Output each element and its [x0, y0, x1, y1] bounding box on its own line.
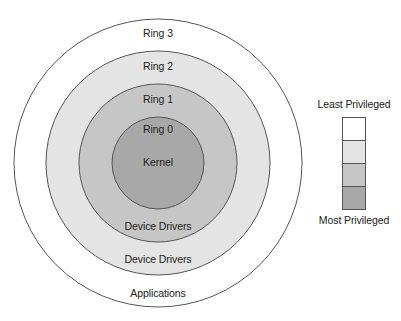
legend-top-label: Least Privileged: [317, 98, 390, 110]
legend-swatch-ring-1: [343, 164, 365, 187]
protection-rings-diagram: [0, 0, 401, 321]
ring-2-bottom-label: Device Drivers: [125, 253, 192, 265]
privilege-legend: [342, 117, 366, 210]
ring-3-label: Ring 3: [143, 27, 173, 39]
ring-3-bottom-label: Applications: [130, 287, 185, 299]
legend-bottom-label: Most Privileged: [319, 214, 389, 226]
legend-swatch-ring-0: [343, 187, 365, 209]
ring-1-bottom-label: Device Drivers: [125, 220, 192, 232]
ring-2-label: Ring 2: [143, 60, 173, 72]
legend-swatch-ring-2: [343, 141, 365, 164]
legend-swatch-ring-3: [343, 118, 365, 141]
kernel-label: Kernel: [143, 156, 173, 168]
ring-0-label: Ring 0: [143, 123, 173, 135]
ring-1-label: Ring 1: [143, 93, 173, 105]
